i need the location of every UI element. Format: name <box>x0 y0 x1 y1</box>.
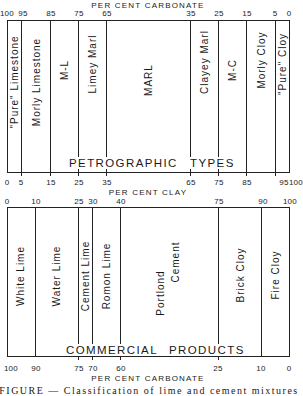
tick-label: 0 <box>5 178 10 187</box>
zone-fire-clay: Fire Cloy <box>270 250 281 299</box>
tick-label: 30 <box>88 197 98 206</box>
zone-limey-marl: Limey Marl <box>87 35 98 94</box>
division-line <box>35 207 36 357</box>
tick-label: 0 <box>287 9 292 18</box>
division-line <box>218 207 219 360</box>
tick-label: 5 <box>273 9 278 18</box>
tick-label: 85 <box>242 178 252 187</box>
tick-label: 85 <box>46 9 56 18</box>
zone-white-lime: White Lime <box>15 246 26 306</box>
tick-label: 95 <box>18 9 28 18</box>
division-line <box>21 20 22 176</box>
tick-label: 60 <box>116 364 126 373</box>
zone-marly-clay: Morly Cloy <box>256 31 267 88</box>
division-line <box>218 20 219 176</box>
zone-pure-clay: "Pure" Cloy <box>277 33 288 95</box>
tick-label: 90 <box>31 364 41 373</box>
zone-portland: Portlond <box>155 270 166 315</box>
zone-cement: Cement <box>170 241 181 282</box>
tick-label: 95 <box>279 178 289 187</box>
tick-label: 90 <box>258 197 268 206</box>
tick-label: 25 <box>74 197 84 206</box>
tick-label: 0 <box>287 364 292 373</box>
bottom-axis-title-clay: PER CENT CLAY <box>109 188 187 197</box>
division-line <box>190 20 191 176</box>
tick-label: 15 <box>242 9 252 18</box>
tick-label: 65 <box>186 178 196 187</box>
zone-m-c: M-C <box>227 59 238 81</box>
band-title-petrographic: PETROGRAPHIC <box>67 157 180 169</box>
division-line <box>50 20 51 176</box>
tick-label: 100 <box>0 9 14 18</box>
bottom-panel-frame <box>7 207 290 357</box>
tick-label: 100 <box>4 364 18 373</box>
tick-label: 75 <box>214 178 224 187</box>
division-line <box>92 207 93 360</box>
tick-label: 70 <box>88 364 98 373</box>
division-line <box>120 207 121 360</box>
band-title-products: PRODUCTS <box>167 344 247 356</box>
tick-label: 100 <box>283 197 297 206</box>
tick-label: 75 <box>74 9 84 18</box>
figure-caption: FIGURE — Classification of lime and ceme… <box>0 385 299 396</box>
zone-brick-clay: Brick Cloy <box>235 247 246 302</box>
zone-roman-lime: Romon Lime <box>101 243 112 310</box>
tick-label: 0 <box>5 197 10 206</box>
zone-marl: MARL <box>143 64 154 96</box>
division-line <box>78 20 79 176</box>
zone-water-lime: Water Lime <box>51 246 62 307</box>
tick-label: 35 <box>186 9 196 18</box>
zone-marly-limestone: Morly Limestone <box>31 38 42 126</box>
tick-label: 25 <box>214 9 224 18</box>
division-line <box>246 20 247 176</box>
tick-label: 15 <box>46 178 56 187</box>
band-title-commercial: COMMERCIAL <box>64 344 160 356</box>
tick-label: 10 <box>31 197 41 206</box>
tick-label: 75 <box>214 197 224 206</box>
tick-label: 65 <box>102 9 112 18</box>
tick-label: 35 <box>102 178 112 187</box>
tick-label: 100 <box>289 178 303 187</box>
tick-label: 10 <box>256 364 266 373</box>
division-line <box>106 20 107 176</box>
tick-label: 5 <box>19 178 24 187</box>
tick-label: 25 <box>213 364 223 373</box>
tick-label: 75 <box>74 364 84 373</box>
zone-m-l: M-L <box>59 60 70 80</box>
zone-cement-lime: Cement Lime <box>80 241 91 311</box>
bottom-axis-title-carbonate: PER CENT CARBONATE <box>91 374 204 383</box>
tick-label: 40 <box>116 197 126 206</box>
zone-pure-limestone: "Pure" Limestone <box>9 35 20 128</box>
band-title-types: TYPES <box>188 157 237 169</box>
division-line <box>261 207 262 357</box>
zone-clayey-marl: Clayey Marl <box>199 30 210 94</box>
tick-label: 25 <box>74 178 84 187</box>
